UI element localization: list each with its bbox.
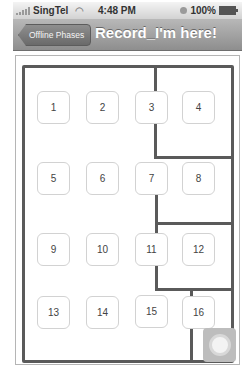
- status-right: 100%: [180, 5, 236, 16]
- wall: [154, 156, 234, 159]
- status-bar: SingTel ◠ 4:48 PM 100%: [13, 2, 242, 19]
- room-button-5[interactable]: 5: [37, 162, 70, 195]
- back-button[interactable]: Offline Phases: [18, 24, 91, 46]
- carrier-name: SingTel: [33, 5, 68, 16]
- page-title: Record_I'm here!: [95, 24, 217, 41]
- room-button-15[interactable]: 15: [135, 295, 168, 328]
- wall: [155, 222, 234, 225]
- wall: [155, 288, 234, 291]
- wifi-icon: ◠: [75, 5, 84, 16]
- room-button-4[interactable]: 4: [182, 91, 215, 124]
- room-button-8[interactable]: 8: [182, 162, 215, 195]
- room-button-9[interactable]: 9: [37, 233, 70, 266]
- lock-rotation-icon: [180, 7, 187, 14]
- assistive-touch-button[interactable]: [203, 328, 236, 362]
- room-button-2[interactable]: 2: [86, 91, 119, 124]
- room-button-16[interactable]: 16: [182, 296, 215, 329]
- navigation-bar: Offline Phases Record_I'm here!: [13, 19, 242, 51]
- carrier-group: SingTel ◠: [16, 5, 84, 16]
- room-button-7[interactable]: 7: [135, 162, 168, 195]
- room-button-3[interactable]: 3: [135, 91, 168, 124]
- battery-percent: 100%: [190, 5, 216, 16]
- room-button-6[interactable]: 6: [86, 162, 119, 195]
- room-button-12[interactable]: 12: [182, 233, 215, 266]
- room-button-11[interactable]: 11: [135, 233, 168, 266]
- battery-icon: [219, 6, 236, 15]
- room-button-13[interactable]: 13: [37, 296, 70, 329]
- signal-icon: [16, 7, 30, 15]
- status-time: 4:48 PM: [98, 5, 136, 16]
- room-button-10[interactable]: 10: [86, 233, 119, 266]
- room-button-14[interactable]: 14: [86, 296, 119, 329]
- assistive-touch-icon: [209, 334, 231, 356]
- room-button-1[interactable]: 1: [37, 91, 70, 124]
